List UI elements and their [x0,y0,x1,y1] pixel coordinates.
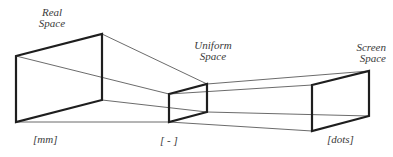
real-space-box [16,34,102,122]
connector-line [169,122,312,131]
uniform-space-unit: [ - ] [160,134,178,146]
connector-line [16,56,169,94]
real-space-title-line2: Space [30,18,74,29]
coordinate-spaces-diagram: Real Space Uniform Space Screen Space [m… [0,0,393,157]
connector-line [169,85,312,94]
connectors-real-to-uniform [16,34,207,122]
real-space-unit: [mm] [33,133,57,145]
real-space-title: Real Space [30,7,74,29]
connector-line [207,112,369,116]
screen-space-title: Screen Space [346,42,386,64]
screen-space-title-line2: Space [346,53,386,64]
uniform-space-title: Uniform Space [188,40,238,62]
uniform-space-title-line2: Space [188,51,238,62]
uniform-space-box [169,84,207,122]
connector-line [102,100,207,112]
screen-space-unit: [dots] [327,133,354,145]
screen-space-box [312,71,369,131]
